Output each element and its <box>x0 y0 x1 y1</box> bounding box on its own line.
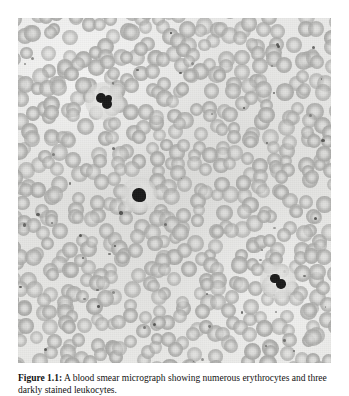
figure-caption-label: Figure 1.1: <box>18 373 62 383</box>
figure-caption: Figure 1.1: A blood smear micrograph sho… <box>18 372 334 396</box>
leukocyte-layer <box>18 18 331 363</box>
leukocyte-nucleus-lobe <box>105 95 112 102</box>
leukocyte-lower-right <box>260 263 296 299</box>
leukocyte-nucleus-lobe <box>136 192 146 202</box>
leukocyte-center <box>121 177 157 213</box>
leukocyte-upper-left <box>85 82 123 120</box>
figure-caption-text: A blood smear micrograph showing numerou… <box>18 373 327 395</box>
blood-smear-micrograph <box>18 18 331 363</box>
leukocyte-nucleus-lobe <box>276 279 286 289</box>
